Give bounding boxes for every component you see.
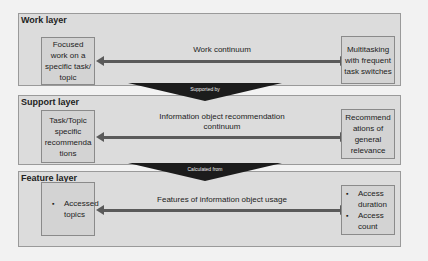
feature-layer: Feature layer Accessed topics Features o… [18, 171, 401, 247]
accessed-topics-list: Accessed topics [44, 198, 99, 220]
accessed-topics-box: Accessed topics [41, 182, 95, 236]
work-layer: Work layer Focused work on a specific ta… [18, 13, 401, 86]
list-item: Access duration [350, 188, 392, 210]
work-continuum-label: Work continuum [103, 45, 341, 55]
access-metrics-list: Access duration Access count [344, 188, 392, 232]
support-layer: Support layer Task/Topic specific recomm… [18, 95, 401, 165]
multitasking-box: Multitasking with frequent task switches [341, 36, 395, 84]
recommendation-continuum-label: Information object recommendation contin… [147, 112, 297, 132]
list-item: Accessed topics [56, 198, 99, 220]
supported-by-label: Supported by [165, 86, 245, 92]
usage-features-arrow [103, 209, 341, 212]
calculated-from-label: Calculated from [165, 166, 245, 172]
access-metrics-box: Access duration Access count [341, 185, 395, 235]
recommendation-continuum-arrow [103, 136, 341, 139]
work-continuum-arrow [103, 60, 341, 63]
usage-features-label: Features of information object usage [103, 195, 341, 205]
support-layer-title: Support layer [21, 97, 79, 107]
general-relevance-box: Recommend ations of general relevance [341, 109, 395, 159]
focused-work-box: Focused work on a specific task/ topic [41, 37, 95, 85]
list-item: Access count [350, 210, 392, 232]
task-topic-recommendations-box: Task/Topic specific recommenda tions [41, 110, 95, 163]
work-layer-title: Work layer [21, 15, 67, 25]
